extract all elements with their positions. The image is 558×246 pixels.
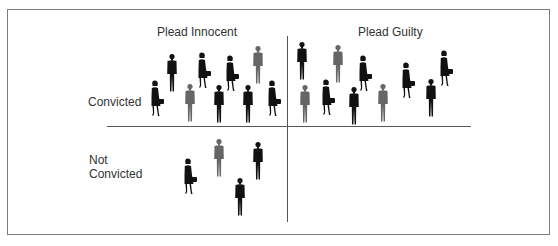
- man-figure-icon: [250, 141, 266, 181]
- man-figure-icon: [240, 84, 256, 124]
- woman-figure-icon: [320, 79, 336, 119]
- man-figure-icon: [423, 78, 439, 118]
- man-figure-icon: [294, 41, 310, 81]
- woman-figure-icon: [196, 52, 212, 92]
- horizontal-divider: [107, 126, 471, 127]
- woman-figure-icon: [266, 80, 282, 120]
- woman-figure-icon: [182, 158, 198, 198]
- diagram-frame: [7, 9, 550, 235]
- column-header-plead-innocent: Plead Innocent: [157, 25, 237, 39]
- woman-figure-icon: [357, 55, 373, 95]
- man-figure-icon: [232, 177, 248, 217]
- man-figure-icon: [164, 53, 180, 93]
- woman-figure-icon: [149, 80, 165, 120]
- man-figure-icon: [330, 44, 346, 84]
- man-figure-icon: [211, 138, 227, 178]
- row-header-not-convicted: Not Convicted: [89, 153, 149, 181]
- man-figure-icon: [375, 83, 391, 123]
- vertical-divider: [287, 36, 288, 222]
- man-figure-icon: [297, 84, 313, 124]
- man-figure-icon: [250, 45, 266, 85]
- row-header-convicted: Convicted: [88, 95, 141, 109]
- column-header-plead-guilty: Plead Guilty: [358, 25, 423, 39]
- woman-figure-icon: [224, 55, 240, 95]
- woman-figure-icon: [438, 50, 454, 90]
- woman-figure-icon: [400, 62, 416, 102]
